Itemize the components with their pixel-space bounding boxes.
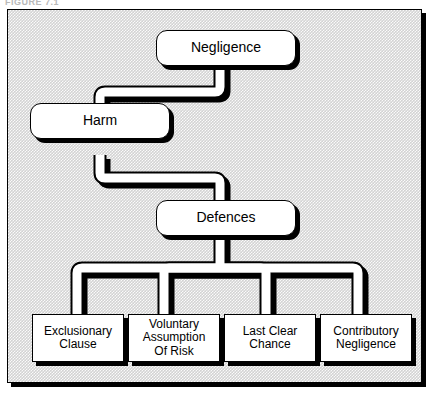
node-voluntary-assumption[interactable]: Voluntary Assumption Of Risk bbox=[128, 314, 220, 362]
node-voluntary-assumption-label: Voluntary Assumption Of Risk bbox=[143, 318, 206, 358]
edge-harm-defences bbox=[100, 155, 220, 206]
edge-defences-drop-4-shadow bbox=[224, 272, 362, 320]
node-negligence-label: Negligence bbox=[191, 40, 261, 56]
node-negligence[interactable]: Negligence bbox=[156, 30, 296, 66]
figure-caption: FIGURE 7.1 bbox=[5, 0, 59, 7]
node-last-clear-chance-label: Last Clear Chance bbox=[243, 325, 298, 352]
node-last-clear-chance[interactable]: Last Clear Chance bbox=[224, 314, 316, 362]
node-contributory-negligence-label: Contributory Negligence bbox=[333, 325, 398, 352]
edge-defences-drop-1-shadow bbox=[81, 272, 224, 320]
node-harm[interactable]: Harm bbox=[30, 103, 170, 139]
node-exclusionary-clause-label: Exclusionary Clause bbox=[44, 325, 112, 352]
diagram-frame: Negligence Harm Defences Exclusionary Cl… bbox=[7, 9, 422, 383]
node-defences-label: Defences bbox=[196, 210, 255, 226]
edge-defences-drop-2-shadow bbox=[168, 272, 224, 320]
node-harm-label: Harm bbox=[83, 113, 117, 129]
node-exclusionary-clause[interactable]: Exclusionary Clause bbox=[32, 314, 124, 362]
node-defences[interactable]: Defences bbox=[156, 200, 296, 236]
node-contributory-negligence[interactable]: Contributory Negligence bbox=[320, 314, 412, 362]
